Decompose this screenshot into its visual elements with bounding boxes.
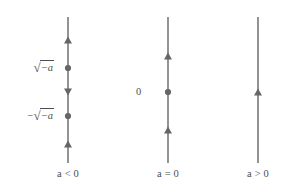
phase-line-canvas <box>0 0 284 196</box>
radical-expression: √−a <box>34 109 54 122</box>
direction-arrow-up <box>64 37 72 44</box>
direction-arrow-up <box>164 53 172 60</box>
equilibrium-point-semi-stable <box>165 89 171 95</box>
equilibrium-point-unstable <box>65 65 71 71</box>
equilibrium-label-sqrt-neg-a: √−a <box>8 61 54 74</box>
radicand: −a <box>40 62 54 73</box>
case-label-a-zero: a = 0 <box>138 168 198 179</box>
case-label-a-positive: a > 0 <box>228 168 284 179</box>
case-label-a-negative: a < 0 <box>38 168 98 179</box>
equilibrium-label-minus-sqrt-neg-a: − √−a <box>4 109 54 122</box>
direction-arrow-up <box>164 127 172 134</box>
equilibrium-point-stable <box>65 113 71 119</box>
phase-line-figure: √−a − √−a 0 a < 0 a = 0 a > 0 <box>0 0 284 196</box>
equilibrium-label-zero: 0 <box>136 86 141 97</box>
phase-line-group-line-a-negative <box>64 17 72 163</box>
radical-expression: √−a <box>34 61 54 74</box>
direction-arrow-up <box>64 141 72 148</box>
phase-line-group-line-a-zero <box>164 17 172 163</box>
phase-line-group-line-a-positive <box>254 17 262 163</box>
direction-arrow-up <box>254 89 262 96</box>
radicand: −a <box>40 110 54 121</box>
direction-arrow-down <box>64 89 72 96</box>
